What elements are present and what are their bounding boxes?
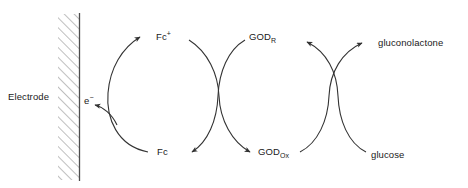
god-ox-symbol: GOD (258, 146, 280, 157)
biosensor-scheme-diagram: Electrode e− Fc+ Fc GODR GODOx gluconola… (0, 0, 468, 188)
electron-charge: − (89, 94, 93, 101)
arrow-fc-plus-to-god-ox (189, 40, 250, 152)
substrate-label: glucose (371, 150, 404, 160)
arrow-fc-to-fc-plus (108, 37, 148, 152)
electrode-label: Electrode (8, 92, 49, 102)
mediator-reduced-label: Fc (157, 147, 168, 157)
fc-plus-charge: + (167, 30, 171, 37)
god-red-symbol: GOD (249, 31, 271, 42)
product-label: gluconolactone (378, 38, 443, 48)
enzyme-oxidized-label: GODOx (258, 147, 289, 157)
mediator-oxidized-label: Fc+ (156, 32, 171, 42)
arrow-glucose-to-god-red (307, 42, 366, 152)
electrode-bar (58, 13, 80, 181)
arrow-god-ox-to-gluconolactone (300, 43, 362, 152)
god-red-subscript: R (271, 37, 276, 44)
god-ox-subscript: Ox (280, 152, 289, 159)
arrow-god-red-to-fc (192, 40, 245, 152)
electron-label: e− (84, 96, 94, 106)
arrow-electron-to-electrode (95, 105, 117, 125)
fc-plus-symbol: Fc (156, 31, 167, 42)
enzyme-reduced-label: GODR (249, 32, 276, 42)
